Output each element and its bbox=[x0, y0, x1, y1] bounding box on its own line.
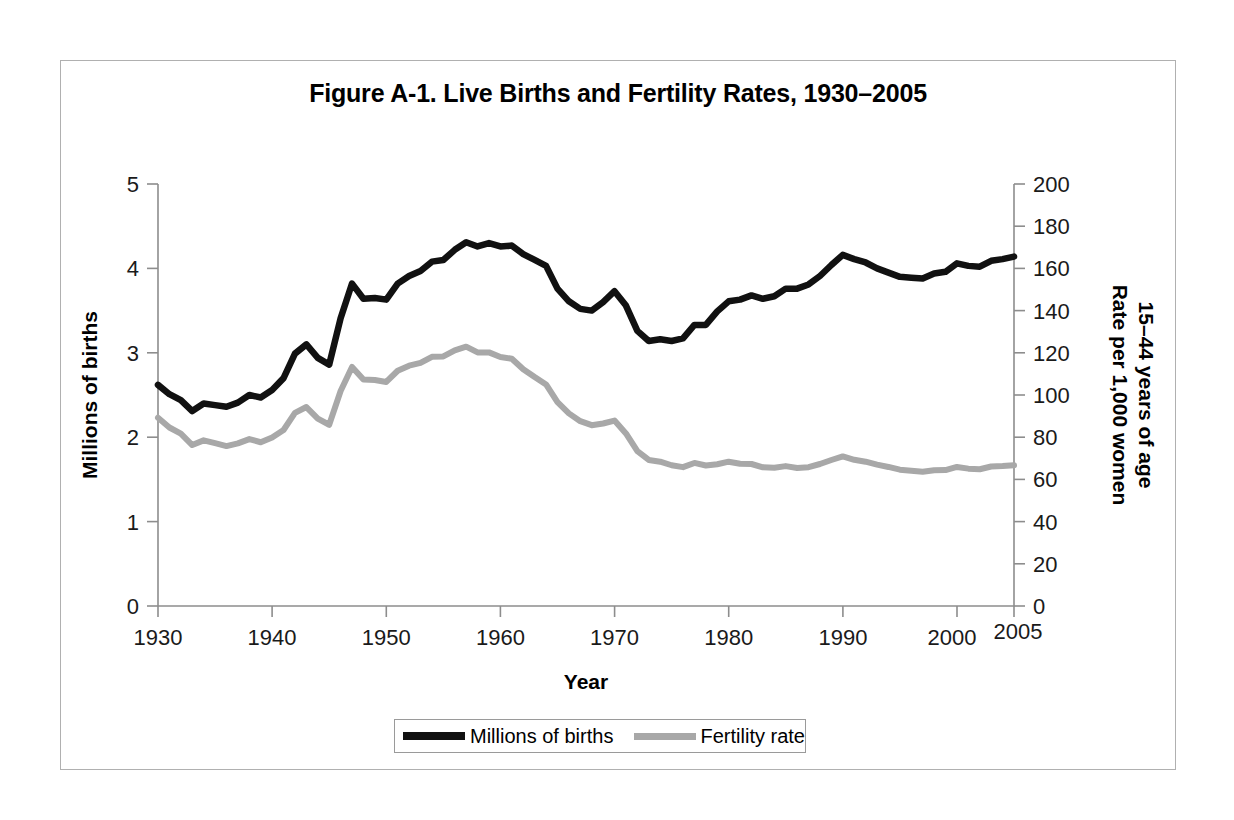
y-tick-label-3: 3 bbox=[127, 341, 139, 366]
y-tick-label-1: 1 bbox=[127, 510, 139, 535]
x-tick-label-1990: 1990 bbox=[818, 625, 867, 650]
y-axis-left-ticks: 5 4 3 2 1 0 bbox=[127, 172, 158, 619]
y2-tick-label-100: 100 bbox=[1033, 383, 1070, 408]
y-tick-label-5: 5 bbox=[127, 172, 139, 197]
y-axis-right-title-line1: Rate per 1,000 women bbox=[1109, 285, 1132, 506]
y-axis-right-ticks: 200 180 160 140 120 100 80 60 40 20 0 bbox=[1014, 172, 1070, 619]
chart-legend: Millions of births Fertility rate bbox=[394, 719, 806, 753]
legend-swatch-icon-births bbox=[403, 732, 465, 740]
x-tick-label-2000: 2000 bbox=[928, 625, 977, 650]
chart-plot-area: 5 4 3 2 1 0 200 180 160 140 120 100 bbox=[61, 61, 1175, 769]
x-tick-label-1960: 1960 bbox=[476, 625, 525, 650]
y-axis-right-title-line2: 15–44 years of age bbox=[1135, 302, 1158, 489]
y-axis-left-title: Millions of births bbox=[78, 311, 101, 479]
y2-tick-label-180: 180 bbox=[1033, 214, 1070, 239]
legend-label-births: Millions of births bbox=[470, 725, 613, 748]
y2-tick-label-0: 0 bbox=[1033, 594, 1045, 619]
x-tick-label-1940: 1940 bbox=[248, 625, 297, 650]
x-axis-title: Year bbox=[564, 670, 608, 693]
y2-tick-label-140: 140 bbox=[1033, 299, 1070, 324]
y-tick-label-0: 0 bbox=[127, 594, 139, 619]
figure-frame: Figure A-1. Live Births and Fertility Ra… bbox=[60, 60, 1176, 770]
y2-tick-label-200: 200 bbox=[1033, 172, 1070, 197]
legend-label-fertility: Fertility rate bbox=[701, 725, 805, 748]
x-tick-label-1970: 1970 bbox=[590, 625, 639, 650]
y2-tick-label-20: 20 bbox=[1033, 552, 1057, 577]
x-tick-label-1950: 1950 bbox=[362, 625, 411, 650]
legend-item-fertility-rate[interactable]: Fertility rate bbox=[634, 725, 805, 748]
y2-tick-label-160: 160 bbox=[1033, 256, 1070, 281]
series-line-millions-of-births bbox=[158, 242, 1014, 411]
y2-tick-label-40: 40 bbox=[1033, 510, 1057, 535]
y2-tick-label-60: 60 bbox=[1033, 467, 1057, 492]
plot-axes bbox=[158, 184, 1014, 606]
y2-tick-label-80: 80 bbox=[1033, 425, 1057, 450]
x-tick-label-1930: 1930 bbox=[134, 625, 183, 650]
y2-tick-label-120: 120 bbox=[1033, 341, 1070, 366]
legend-item-millions-of-births[interactable]: Millions of births bbox=[403, 725, 613, 748]
x-tick-label-2005: 2005 bbox=[994, 619, 1043, 644]
legend-swatch-icon-fertility bbox=[634, 733, 696, 740]
x-axis-ticks: 1930 1940 1950 1960 1970 1980 1990 2000 … bbox=[134, 606, 1043, 650]
y-tick-label-4: 4 bbox=[127, 256, 139, 281]
y-tick-label-2: 2 bbox=[127, 425, 139, 450]
x-tick-label-1980: 1980 bbox=[704, 625, 753, 650]
